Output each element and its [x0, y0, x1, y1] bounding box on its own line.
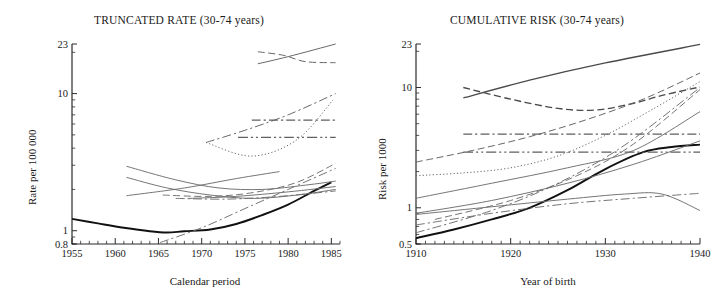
svg-text:1980: 1980: [278, 248, 299, 259]
svg-text:10: 10: [402, 82, 413, 93]
series-line-series-a-heavy-solid: [416, 145, 700, 238]
panel-truncated-rate: TRUNCATED RATE (30-74 years) Rate per 10…: [0, 0, 358, 298]
svg-text:23: 23: [58, 39, 69, 50]
panel-cumulative-risk: CUMULATIVE RISK (30-74 years) Risk per 1…: [358, 0, 716, 298]
svg-text:1930: 1930: [595, 248, 616, 259]
svg-text:1910: 1910: [406, 248, 427, 259]
series-line-series-a-heavy-solid: [72, 182, 331, 232]
svg-text:10: 10: [58, 88, 69, 99]
plot-area-truncated-rate: 0.8110231955196019651970197519801985: [0, 0, 358, 298]
series-line-series-b-solid-top-rising: [463, 44, 700, 97]
svg-text:1: 1: [407, 202, 412, 213]
figure-root: TRUNCATED RATE (30-74 years) Rate per 10…: [0, 0, 716, 298]
series-line-series-h-dashdot-rising-mid: [416, 88, 700, 233]
svg-text:1965: 1965: [148, 248, 169, 259]
svg-text:1920: 1920: [500, 248, 521, 259]
svg-text:1985: 1985: [321, 248, 342, 259]
svg-text:1: 1: [63, 225, 68, 236]
series-line-series-b-solid-top-rising: [258, 44, 336, 64]
series-line-series-d-dashdot-rising: [206, 94, 336, 143]
series-line-series-l-dashdot-flat-low: [416, 193, 700, 225]
plot-area-cumulative-risk: 0.5110231910192019301940: [358, 0, 716, 298]
svg-text:1955: 1955: [62, 248, 83, 259]
svg-text:1970: 1970: [191, 248, 212, 259]
svg-text:1975: 1975: [234, 248, 255, 259]
series-line-series-g-dotted-v: [206, 100, 333, 156]
series-line-series-e-dotted-rising: [416, 82, 700, 176]
series-line-series-c-dashed-top-u: [463, 87, 700, 110]
svg-text:1960: 1960: [105, 248, 126, 259]
svg-text:1940: 1940: [690, 248, 711, 259]
svg-text:23: 23: [402, 39, 413, 50]
